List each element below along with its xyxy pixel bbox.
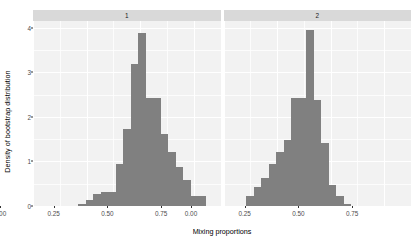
histogram-bar <box>246 196 254 206</box>
histogram-bar <box>101 192 109 206</box>
gridline-horizontal <box>33 28 221 29</box>
x-tick-mark <box>161 206 162 208</box>
x-tick-label: 0.25 <box>47 210 59 217</box>
panel-strip-1: 1 <box>33 10 221 21</box>
histogram-bar <box>276 152 284 206</box>
histogram-bar <box>131 64 139 206</box>
histogram-bar <box>336 196 344 206</box>
gridline-horizontal <box>33 72 221 73</box>
histogram-bar <box>299 98 307 206</box>
gridline-horizontal <box>33 117 221 118</box>
histogram-bar <box>314 100 322 206</box>
histogram-bar <box>123 129 131 206</box>
histogram-bar <box>108 192 116 206</box>
x-axis-1: 0.000.250.500.75 <box>0 206 188 222</box>
histogram-bar <box>198 196 206 206</box>
x-tick-label: 0.00 <box>0 210 6 217</box>
gridline-horizontal <box>224 72 412 73</box>
x-axis-title: Mixing proportions <box>33 227 411 236</box>
x-tick-mark <box>352 206 353 208</box>
x-tick-label: 0.75 <box>155 210 167 217</box>
histogram-bar <box>183 180 191 206</box>
histogram-bar <box>191 196 199 206</box>
panels-container: 1 2 <box>33 10 411 206</box>
x-tick-mark <box>191 206 192 208</box>
histogram-bar <box>146 98 154 206</box>
chart-figure: Density of bootstrap distribution 01234 … <box>0 0 414 243</box>
gridline-vertical <box>384 21 385 206</box>
histogram-bar <box>306 30 314 206</box>
histogram-bar <box>254 187 262 206</box>
histogram-bar <box>138 33 146 206</box>
gridline-horizontal <box>224 28 412 29</box>
gridline-vertical <box>33 21 34 206</box>
x-tick-label: 0.50 <box>101 210 113 217</box>
histogram-bar <box>329 185 337 206</box>
x-tick-label: 0.50 <box>292 210 304 217</box>
plot-area-1 <box>33 21 221 206</box>
histogram-bar <box>269 164 277 206</box>
x-tick-mark <box>298 206 299 208</box>
histogram-bar <box>176 167 184 206</box>
histogram-bar <box>153 98 161 206</box>
panel-1: 1 <box>33 10 221 206</box>
plot-area-2 <box>224 21 412 206</box>
gridline-vertical <box>87 21 88 206</box>
x-tick-mark <box>245 206 246 208</box>
histogram-bar <box>168 152 176 206</box>
x-tick-mark <box>107 206 108 208</box>
gridline-vertical <box>194 21 195 206</box>
panel-strip-2: 2 <box>224 10 412 21</box>
gridline-vertical <box>331 21 332 206</box>
histogram-bar <box>261 178 269 206</box>
x-tick-label: 0.25 <box>238 210 250 217</box>
x-tick-mark <box>54 206 55 208</box>
gridline-vertical <box>224 21 225 206</box>
x-tick-label: 0.75 <box>346 210 358 217</box>
histogram-bar <box>321 143 329 206</box>
histogram-bar <box>284 140 292 206</box>
x-axis-2: 0.000.250.500.75 <box>191 206 379 222</box>
histogram-bar <box>116 164 124 206</box>
x-tick-label: 0.00 <box>185 210 197 217</box>
x-tick-mark <box>0 206 1 208</box>
histogram-bar <box>93 194 101 206</box>
histogram-bar <box>161 134 169 206</box>
panel-2: 2 <box>224 10 412 206</box>
histogram-bar <box>291 98 299 206</box>
